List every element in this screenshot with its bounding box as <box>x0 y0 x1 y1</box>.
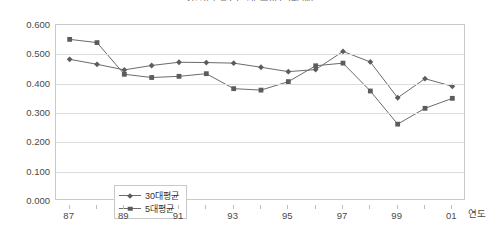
series-line-5대평균 <box>70 39 453 124</box>
x-axis-tick-label: 01 <box>446 210 457 221</box>
x-axis-tick <box>178 205 179 209</box>
data-point <box>149 63 155 69</box>
data-point <box>94 61 100 67</box>
gridline <box>56 84 464 85</box>
data-point <box>395 122 400 127</box>
x-axis-tick-label: 89 <box>118 210 129 221</box>
x-axis-tick <box>369 205 370 209</box>
x-axis-tick-label: 95 <box>282 210 293 221</box>
data-point <box>95 40 100 45</box>
y-axis-labels: 0.0000.1000.2000.3000.4000.5000.600 <box>0 0 50 210</box>
diamond-marker-icon <box>119 191 141 200</box>
data-point <box>313 63 318 68</box>
data-point <box>450 96 455 101</box>
chart-title: 기업규모별 ( ) 평균 추이 (단위:배) <box>0 0 499 1</box>
y-axis-tick-label: 0.500 <box>26 48 50 59</box>
x-axis-tick <box>69 205 70 209</box>
x-axis-tick <box>397 205 398 209</box>
gridline <box>56 54 464 55</box>
data-point <box>204 71 209 76</box>
data-point <box>67 56 73 62</box>
x-axis-tick <box>151 205 152 209</box>
x-axis-tick <box>96 205 97 209</box>
gridline <box>56 142 464 143</box>
data-point <box>149 75 154 80</box>
x-axis-tick <box>315 205 316 209</box>
data-point <box>422 76 428 82</box>
legend-label: 30대평균 <box>145 189 179 202</box>
data-point <box>259 88 264 93</box>
line-chart: 기업규모별 ( ) 평균 추이 (단위:배) 0.0000.1000.2000.… <box>0 0 499 237</box>
x-axis-tick <box>233 205 234 209</box>
x-axis-tick-label: 97 <box>337 210 348 221</box>
data-point <box>368 89 373 94</box>
y-axis-tick-label: 0.600 <box>26 19 50 30</box>
x-axis-labels: 8789919395979901 <box>0 205 499 221</box>
data-point <box>177 74 182 79</box>
data-point <box>176 59 182 65</box>
x-axis-tick-label: 99 <box>391 210 402 221</box>
x-axis-tick <box>287 205 288 209</box>
gridline <box>56 113 464 114</box>
x-axis-tick <box>123 205 124 209</box>
data-point <box>285 69 291 75</box>
x-axis-tick <box>424 205 425 209</box>
x-axis-tick <box>342 205 343 209</box>
data-point <box>341 61 346 66</box>
x-axis-tick-label: 93 <box>227 210 238 221</box>
x-axis-tick-label: 87 <box>63 210 74 221</box>
data-point <box>258 64 264 70</box>
y-axis-tick-label: 0.000 <box>26 195 50 206</box>
y-axis-tick-label: 0.100 <box>26 165 50 176</box>
gridline <box>56 172 464 173</box>
data-point <box>122 72 127 77</box>
data-point <box>231 86 236 91</box>
x-axis-tick <box>205 205 206 209</box>
data-point <box>423 106 428 111</box>
x-axis-tick <box>260 205 261 209</box>
x-axis-tick <box>451 205 452 209</box>
plot-area: 30대평균 5대평균 <box>55 24 465 200</box>
x-axis-title: 연도 <box>468 206 486 220</box>
legend-item-30dae: 30대평균 <box>119 189 179 202</box>
data-point <box>67 37 72 42</box>
data-point <box>231 60 237 66</box>
y-axis-tick-label: 0.400 <box>26 77 50 88</box>
y-axis-tick-label: 0.300 <box>26 107 50 118</box>
y-axis-tick-label: 0.200 <box>26 136 50 147</box>
x-axis-tick-label: 91 <box>173 210 184 221</box>
data-point <box>203 60 209 66</box>
